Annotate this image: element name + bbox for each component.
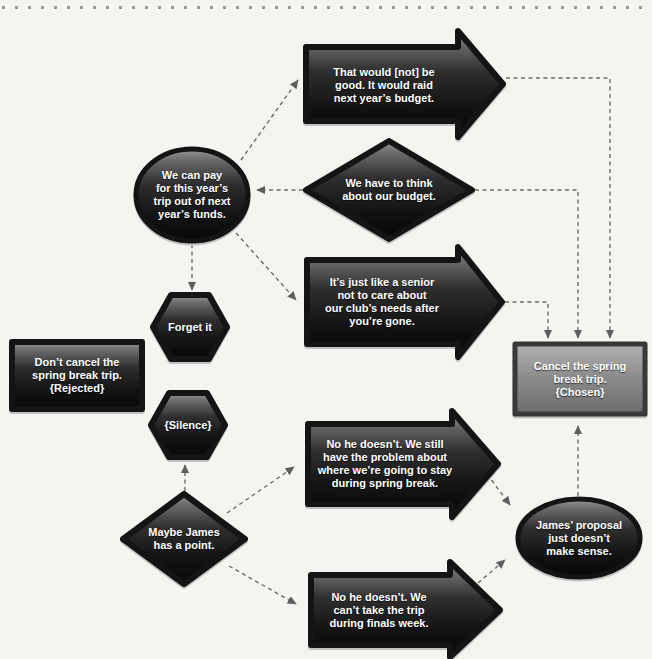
connector-that-would-not-be-good-to-cancel-chosen (506, 78, 610, 338)
connector-maybe-james-to-no-he-doesnt-finals (229, 566, 296, 604)
no-he-doesnt-still-shape (308, 411, 498, 517)
that-would-not-be-good-shape (306, 31, 503, 137)
no-he-doesnt-finals-shape (311, 562, 500, 657)
cancel-chosen-shape (515, 344, 645, 414)
maybe-james-shape (123, 494, 245, 584)
connector-its-just-like-a-senior-to-cancel-chosen (505, 302, 548, 338)
diagram-canvas: That would [not] be good. It would raid … (0, 0, 652, 659)
dont-cancel-rejected-shape (12, 342, 142, 409)
connector-no-he-doesnt-finals-to-james-proposal (478, 560, 505, 583)
we-can-pay-shape (136, 149, 248, 241)
silence-shape (151, 393, 225, 457)
we-have-to-think-shape (306, 141, 472, 239)
connector-no-he-doesnt-still-to-james-proposal (487, 474, 510, 505)
forget-it-shape (153, 295, 227, 359)
connector-we-can-pay-to-that-would-not-be-good (241, 80, 298, 160)
flowchart-svg (0, 0, 652, 659)
its-just-like-a-senior-shape (307, 247, 502, 357)
connector-we-can-pay-to-its-just-like-a-senior (236, 233, 296, 300)
james-proposal-shape (518, 499, 640, 577)
connector-maybe-james-to-no-he-doesnt-still (227, 467, 294, 513)
